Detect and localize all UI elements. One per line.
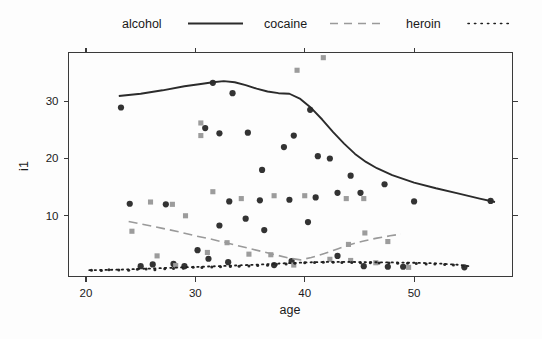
data-point-cocaine (129, 229, 134, 234)
chart-figure: alcohol cocaine heroin 20304050 102030 a… (0, 0, 542, 339)
y-axis-ticks: 102030 (46, 95, 69, 222)
data-point-alcohol (245, 130, 251, 136)
data-point-alcohol (118, 104, 124, 110)
plot-frame (68, 52, 513, 277)
data-point-cocaine (170, 202, 175, 207)
scatter-plot-svg: alcohol cocaine heroin 20304050 102030 a… (0, 0, 542, 339)
data-point-alcohol (327, 155, 333, 161)
data-point-alcohol (315, 153, 321, 159)
data-point-alcohol (257, 197, 263, 203)
data-point-cocaine (295, 68, 300, 73)
x-tick-label: 20 (80, 287, 93, 299)
x-tick-label: 30 (189, 287, 202, 299)
data-point-alcohol (281, 144, 287, 150)
data-point-cocaine (406, 265, 411, 270)
data-point-alcohol (194, 247, 200, 253)
data-point-alcohol (334, 190, 340, 196)
x-tick-label: 50 (408, 287, 421, 299)
data-point-cocaine (183, 213, 188, 218)
data-point-cocaine (239, 196, 244, 201)
data-point-alcohol (202, 125, 208, 131)
data-point-alcohol (334, 253, 340, 259)
y-tick-label: 10 (46, 210, 59, 222)
data-point-alcohol (216, 222, 222, 228)
data-point-alcohol (150, 261, 156, 267)
data-point-alcohol (243, 216, 249, 222)
y-axis-label: i1 (17, 161, 31, 171)
data-point-cocaine (321, 55, 326, 60)
x-tick-label: 40 (298, 287, 311, 299)
series-cocaine (129, 55, 411, 270)
data-point-cocaine (344, 196, 349, 201)
x-axis-ticks: 20304050 (80, 277, 421, 299)
data-point-alcohol (226, 198, 232, 204)
top-axis-ticks (86, 48, 414, 53)
data-point-alcohol (163, 201, 169, 207)
legend-label-alcohol: alcohol (122, 17, 162, 31)
data-point-cocaine (362, 230, 367, 235)
data-point-alcohol (127, 201, 133, 207)
right-axis-ticks (513, 101, 518, 216)
fitted-line-alcohol (119, 81, 495, 202)
data-point-alcohol (261, 227, 267, 233)
data-point-cocaine (302, 193, 307, 198)
legend: alcohol cocaine heroin (122, 17, 513, 31)
data-point-alcohol (216, 130, 222, 136)
data-point-alcohol (225, 259, 231, 265)
data-point-alcohol (291, 132, 297, 138)
data-point-alcohol (229, 90, 235, 96)
y-tick-label: 30 (46, 95, 59, 107)
data-point-cocaine (272, 193, 277, 198)
data-point-heroin (350, 261, 353, 264)
y-tick-label: 20 (46, 152, 59, 164)
legend-label-cocaine: cocaine (264, 17, 307, 31)
series-alcohol (118, 80, 494, 271)
data-point-cocaine (205, 250, 210, 255)
data-point-cocaine (198, 120, 203, 125)
legend-label-heroin: heroin (406, 17, 441, 31)
data-point-alcohol (361, 263, 367, 269)
data-point-alcohol (385, 264, 391, 270)
data-point-alcohol (400, 264, 406, 270)
data-point-cocaine (385, 239, 390, 244)
data-point-alcohol (205, 256, 211, 262)
data-point-cocaine (210, 189, 215, 194)
data-point-alcohol (357, 190, 363, 196)
fitted-lines-layer (89, 81, 495, 270)
data-series-layer (90, 55, 494, 272)
data-point-cocaine (155, 253, 160, 258)
data-point-cocaine (148, 199, 153, 204)
data-point-alcohol (313, 194, 319, 200)
x-axis-label: age (280, 303, 301, 317)
data-point-alcohol (305, 219, 311, 225)
data-point-alcohol (411, 198, 417, 204)
data-point-alcohol (286, 197, 292, 203)
data-point-cocaine (198, 133, 203, 138)
data-point-cocaine (361, 196, 366, 201)
data-point-cocaine (246, 252, 251, 257)
data-point-alcohol (381, 181, 387, 187)
data-point-alcohol (348, 173, 354, 179)
data-point-alcohol (259, 167, 265, 173)
